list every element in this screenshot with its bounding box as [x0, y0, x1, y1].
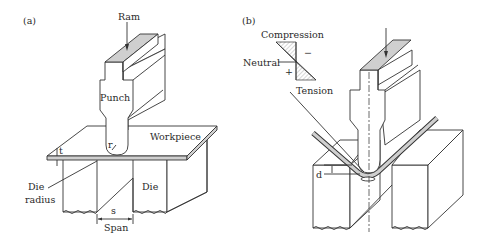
stress-distribution: Compression − + Neutral Tension — [243, 29, 333, 96]
panel-b: (b) Compression − + Neutral Tension — [242, 15, 463, 232]
punch-label: Punch — [100, 92, 130, 103]
panel-b-label: (b) — [242, 15, 256, 26]
depth-label: d — [316, 169, 322, 180]
minus-sign: − — [304, 47, 312, 58]
panel-a: (a) — [23, 11, 217, 233]
thickness-label: t — [59, 145, 63, 156]
v-die — [313, 130, 463, 230]
workpiece-label: Workpiece — [150, 131, 201, 142]
punch-radius-label: r — [108, 139, 113, 150]
bulge — [361, 177, 375, 181]
panel-a-label: (a) — [23, 15, 36, 26]
span-label: Span — [104, 222, 128, 233]
die-radius-label-2: radius — [25, 194, 55, 205]
tension-label: Tension — [296, 85, 333, 96]
ram-label: Ram — [118, 11, 140, 22]
compression-label: Compression — [261, 29, 324, 40]
neutral-label: Neutral — [243, 57, 280, 68]
plus-sign: + — [285, 66, 293, 77]
span-symbol-label: s — [111, 205, 116, 216]
die-label: Die — [142, 181, 159, 192]
press-brake-diagram: (a) — [0, 0, 486, 238]
die-radius-label-1: Die — [28, 181, 45, 192]
